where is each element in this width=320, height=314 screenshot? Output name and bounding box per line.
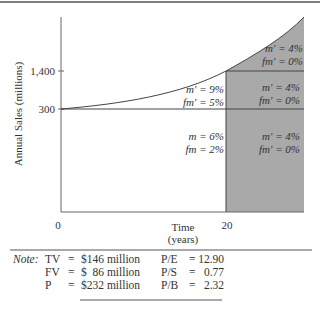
region-top-label-fm: fm' = 0% [262, 55, 303, 67]
ytick-300-label: 300 [39, 103, 56, 115]
note-row-pb-label: P/B [161, 279, 178, 291]
region-bot-label-m: m' = 4% [262, 130, 300, 142]
note-label: Note: [13, 253, 39, 265]
note-row-tv-name: TV [45, 253, 60, 265]
note-row-tv-eq: = [68, 253, 75, 265]
note-row-p-name: P [45, 279, 51, 291]
note-row-pb-eq: = [189, 279, 196, 291]
note-row-pe-label: P/E [161, 253, 178, 265]
note-row-pe-eq: = [189, 253, 196, 265]
note-row-ps-label: P/S [161, 266, 177, 278]
region-top-label-m: m' = 4% [265, 42, 303, 54]
xtick-0-label: 0 [55, 219, 61, 231]
base-label-fm: fm = 2% [185, 143, 224, 155]
growth-label-fm: fm' = 5% [183, 96, 224, 108]
x-axis-label-line1: Time [172, 221, 195, 233]
region-mid-label-m: m' = 4% [262, 81, 300, 93]
note-row-tv-value: $146 million [81, 253, 140, 265]
region-bot-label-fm: fm' = 0% [259, 143, 300, 155]
note-row-fv-value: $ 86 million [81, 266, 140, 278]
y-axis-label: Annual Sales (millions) [12, 61, 25, 166]
note-row-pe-value: 12.90 [196, 253, 224, 265]
base-label-m: m = 6% [188, 130, 224, 142]
note-row-fv-name: FV [45, 266, 60, 278]
xtick-20-label: 20 [222, 219, 234, 231]
region-mid-label-fm: fm' = 0% [259, 94, 300, 106]
note-row-ps-eq: = [189, 266, 196, 278]
note-row-fv-eq: = [68, 266, 75, 278]
note-row-pb-value: 2.32 [196, 279, 224, 291]
note-row-p-eq: = [68, 279, 75, 291]
note-row-p-value: $232 million [81, 279, 140, 291]
growth-label-m: m' = 9% [186, 83, 224, 95]
ytick-1400-label: 1,400 [30, 65, 55, 77]
note-row-ps-value: 0.77 [196, 266, 224, 278]
x-axis-label-line2: (years) [168, 233, 199, 246]
